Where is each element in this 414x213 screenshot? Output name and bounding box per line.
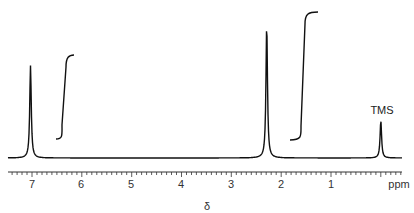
integral-curve-1 — [56, 55, 74, 139]
nmr-spectrum-chart: 7 6 5 4 3 2 1 ppm δ TMS — [0, 0, 414, 213]
x-axis — [8, 172, 402, 177]
spectrum-line — [8, 31, 402, 158]
tick-label-7: 7 — [29, 178, 35, 190]
tick-label-2: 2 — [278, 178, 284, 190]
x-axis-label: δ — [204, 200, 210, 212]
tick-label-1: 1 — [328, 178, 334, 190]
tick-label-6: 6 — [78, 178, 84, 190]
integral-curve-2 — [290, 12, 318, 140]
tick-label-3: 3 — [228, 178, 234, 190]
spectrum-trace — [8, 31, 402, 158]
tms-annotation: TMS — [370, 104, 393, 116]
tick-label-4: 4 — [178, 178, 184, 190]
spectrum-plot: 7 6 5 4 3 2 1 ppm δ TMS — [0, 0, 414, 213]
tick-label-5: 5 — [128, 178, 134, 190]
integral-curves — [56, 12, 318, 140]
axis-unit-label: ppm — [388, 178, 409, 190]
